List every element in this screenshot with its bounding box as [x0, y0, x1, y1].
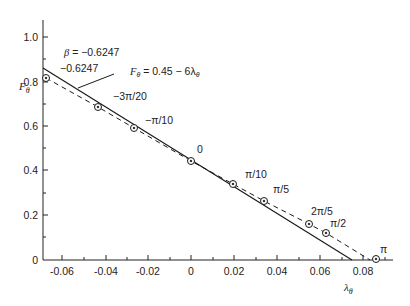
x-tick-label: 0.06	[310, 265, 331, 277]
chart: 0 0.2 0.4 0.6 0.8 1.0 -0.06 -0.04 -0.02 …	[0, 0, 410, 306]
x-tick-label: 0.08	[353, 265, 374, 277]
marker-circle-dot-icon	[261, 198, 268, 205]
point-label: π/5	[273, 183, 289, 195]
y-tick-labels: 0 0.2 0.4 0.6 0.8 1.0	[23, 31, 38, 266]
x-tick-label: -0.02	[136, 265, 160, 277]
marker-circle-dot-icon	[323, 230, 330, 237]
y-tick-label: 0.2	[23, 209, 38, 221]
equation-leader-line	[78, 74, 114, 88]
data-markers	[43, 75, 380, 263]
x-tick-label: -0.04	[94, 265, 118, 277]
point-label: π/10	[245, 168, 267, 180]
equation-label: Fθ = 0.45 − 6λθ	[129, 65, 200, 78]
point-label: 0	[197, 143, 203, 155]
x-tick-label: -0.06	[50, 265, 74, 277]
y-tick-label: 0.4	[23, 164, 38, 176]
marker-circle-dot-icon	[373, 256, 380, 263]
x-tick-label: 0	[188, 265, 194, 277]
beta-annotation: β = −0.6247	[63, 46, 120, 58]
x-axis	[43, 255, 393, 260]
point-label: −3π/20	[113, 90, 147, 102]
y-axis	[43, 20, 48, 260]
point-label: π/2	[330, 217, 346, 229]
marker-circle-dot-icon	[188, 158, 195, 165]
marker-circle-dot-icon	[43, 75, 50, 82]
y-tick-label: 0	[32, 254, 38, 266]
marker-circle-dot-icon	[95, 104, 102, 111]
marker-circle-dot-icon	[230, 181, 237, 188]
y-tick-label: 0.6	[23, 120, 38, 132]
x-axis-label: λθ	[343, 281, 353, 296]
y-tick-label: 1.0	[23, 31, 38, 43]
marker-circle-dot-icon	[131, 125, 138, 132]
point-label: π	[380, 243, 387, 255]
point-label: 2π/5	[311, 205, 333, 217]
x-tick-label: 0.02	[224, 265, 245, 277]
point-label: −π/10	[145, 114, 173, 126]
x-tick-label: 0.04	[267, 265, 288, 277]
x-tick-labels: -0.06 -0.04 -0.02 0 0.02 0.04 0.06 0.08	[50, 265, 373, 277]
beta-value-label: −0.6247	[60, 62, 98, 74]
marker-circle-dot-icon	[306, 221, 313, 228]
